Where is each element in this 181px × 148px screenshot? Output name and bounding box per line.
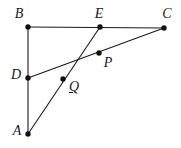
point-label-e: E: [95, 7, 104, 21]
point-label-c: C: [162, 7, 171, 21]
segment-dc: [28, 28, 164, 78]
point-label-d: D: [11, 68, 21, 82]
segment-group: [28, 27, 164, 134]
geometry-figure: A B C D E P Q: [0, 0, 181, 148]
point-label-a: A: [13, 124, 22, 138]
segment-bc: [28, 27, 164, 28]
geometry-canvas: [0, 0, 181, 148]
point-label-b: B: [15, 7, 24, 21]
vertex-dot-a: [25, 131, 30, 136]
vertex-dot-e: [97, 24, 102, 29]
point-label-p: P: [104, 56, 113, 70]
vertex-dot-c: [161, 25, 166, 30]
vertex-dot-b: [25, 24, 30, 29]
vertex-dot-d: [25, 75, 30, 80]
vertex-dot-q: [60, 76, 65, 81]
point-label-q: Q: [69, 80, 79, 94]
vertex-dot-group: [25, 24, 166, 136]
vertex-dot-p: [96, 50, 101, 55]
